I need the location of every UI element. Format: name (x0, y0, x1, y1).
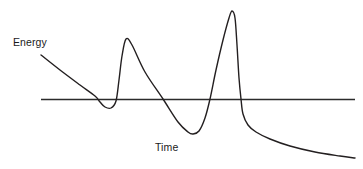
energy-time-plot (0, 0, 363, 169)
diagram-canvas: Energy Time (0, 0, 363, 169)
y-axis-label-energy: Energy (13, 36, 47, 48)
plot-background (0, 0, 363, 169)
x-axis-label-time: Time (155, 141, 178, 153)
